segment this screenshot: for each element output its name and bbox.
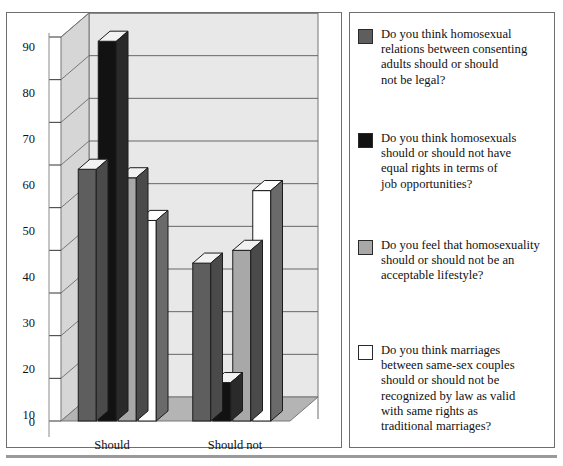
legend-label-0: Do you think homosexual relations betwee… <box>381 27 527 88</box>
y-tick-label: 50 <box>9 225 35 238</box>
legend-item-3[interactable]: Do you think marriages between same-sex … <box>358 343 550 434</box>
legend-swatch-white <box>358 345 373 360</box>
chart-legend: Do you think homosexual relations betwee… <box>349 12 555 448</box>
y-tick-label: 0 <box>9 416 35 429</box>
legend-swatch-dark-gray <box>358 29 373 44</box>
legend-item-1[interactable]: Do you think homosexuals should or shoul… <box>358 131 550 192</box>
y-tick-label: 30 <box>9 317 35 330</box>
chart-page: 90 80 70 60 50 40 30 20 10 0 Should Shou… <box>0 0 563 466</box>
legend-label-1: Do you think homosexuals should or shoul… <box>381 131 516 192</box>
y-tick-label: 80 <box>9 87 35 100</box>
legend-label-3: Do you think marriages between same-sex … <box>381 343 515 434</box>
legend-swatch-black <box>358 133 373 148</box>
y-tick-label: 70 <box>9 133 35 146</box>
bar-0-0 <box>78 159 108 421</box>
bar-chart-3d <box>7 13 343 449</box>
legend-item-2[interactable]: Do you feel that homosexuality should or… <box>358 238 550 284</box>
page-bottom-rule <box>6 455 557 458</box>
y-tick-label: 60 <box>9 179 35 192</box>
y-tick-label: 20 <box>9 363 35 376</box>
x-category-label-should-not: Should not <box>175 439 295 452</box>
legend-swatch-medium-gray <box>358 240 373 255</box>
bar-1-0 <box>193 253 223 421</box>
x-category-label-should: Should <box>57 439 167 452</box>
legend-label-2: Do you feel that homosexuality should or… <box>381 238 540 284</box>
chart-canvas <box>7 13 343 449</box>
y-tick-label: 40 <box>9 271 35 284</box>
y-tick-label: 90 <box>9 41 35 54</box>
chart-plot-frame: 90 80 70 60 50 40 30 20 10 0 Should Shou… <box>6 12 342 448</box>
legend-item-0[interactable]: Do you think homosexual relations betwee… <box>358 27 550 88</box>
